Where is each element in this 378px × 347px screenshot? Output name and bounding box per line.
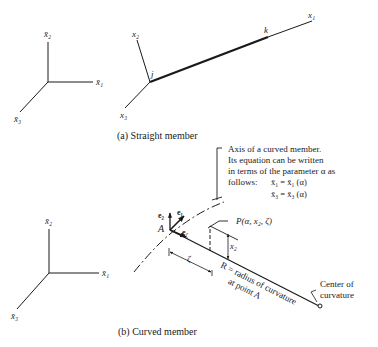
local-x2-axis [137,40,150,82]
label-point-a: A [157,223,165,234]
label-local-x2: x₂ [131,29,139,39]
radius-line [170,230,319,306]
global-x3-axis [20,82,48,112]
panel-a-global-axes: x̄₂ x̄₁ x̄₃ [13,29,103,124]
label-node-j: j [150,69,154,79]
global-x3-axis-b [17,273,49,309]
panel-a-member: x₂ x₃ x₁ j k [119,10,315,120]
label-local-x3: x₃ [119,110,127,120]
label-global-x2: x̄₂ [43,29,51,39]
note-line-3: in terms of the parameter α as [228,166,336,176]
panel-b-global-axes: x̄₂ x̄₁ x̄₃ [10,216,109,321]
caption-a: (a) Straight member [117,130,198,142]
note-line-4: follows: [228,177,258,187]
center-label-2: curvature [320,290,354,300]
local-x3-axis [125,82,150,108]
straight-member [150,37,268,82]
label-global-x3: x̄₃ [13,114,21,124]
note-line-1: Axis of a curved member. [228,144,321,154]
caption-b: (b) Curved member [118,326,198,338]
label-global-x3-b: x̄₃ [10,311,18,321]
note-line-2: Its equation can be written [228,155,324,165]
label-e2: e₂ [158,211,165,220]
label-global-x2-b: x̄₂ [44,216,52,226]
center-label-1: Center of [320,279,354,289]
label-point-p: P(α, x₂, ζ) [235,216,272,226]
figure-canvas: x̄₂ x̄₁ x̄₃ x₂ x₃ x₁ j k (a) Straight me… [0,0,378,347]
note-eq-2: x̄₃ = x̄₃ (α) [271,189,307,199]
label-local-x1: x₁ [307,10,315,20]
label-node-k: k [264,25,269,35]
label-global-x1-b: x̄₁ [101,268,109,278]
label-dim-x2: x₂ [229,241,237,251]
label-e1: e₁ [177,208,184,217]
note-eq-1: x̄₁ = x̄₁ (α) [271,177,307,187]
axis-note: Axis of a curved member. Its equation ca… [228,144,336,199]
local-x1-axis [268,21,312,37]
center-leader [311,290,317,302]
label-global-x1: x̄₁ [95,77,103,87]
p-offset-line [210,226,238,240]
radius-label: R = radius of curvature at point A [214,260,298,317]
center-of-curvature-point [318,304,322,308]
note-leader [217,148,222,200]
